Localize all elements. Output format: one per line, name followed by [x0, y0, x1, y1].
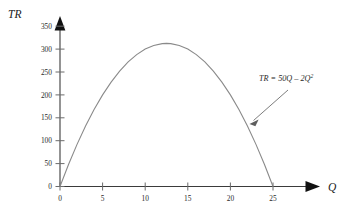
y-axis-tick-labels: 0 50 100 150 200 250 300 350 [41, 22, 52, 191]
x-axis-tick-labels: 0 5 10 15 20 25 [58, 194, 277, 203]
y-tick-label-50: 50 [45, 159, 53, 168]
y-tick-label-150: 150 [41, 113, 52, 122]
x-tick-label-0: 0 [58, 194, 62, 203]
annotation-leader-line [254, 90, 289, 121]
y-tick-label-100: 100 [41, 136, 52, 145]
y-tick-label-0: 0 [48, 182, 52, 191]
x-tick-label-20: 20 [227, 194, 235, 203]
y-axis-label: TR [8, 8, 21, 20]
x-tick-label-10: 10 [142, 194, 150, 203]
figure-chart: 0 50 100 150 200 250 300 350 0 5 10 15 2… [0, 0, 346, 221]
total-revenue-curve [60, 43, 273, 186]
curve-equation-label: TR = 50Q – 2Q2 [259, 73, 313, 83]
x-tick-label-15: 15 [184, 194, 192, 203]
y-tick-label-300: 300 [41, 45, 52, 54]
y-tick-label-250: 250 [41, 68, 52, 77]
x-axis-label: Q [328, 181, 337, 193]
x-tick-label-25: 25 [269, 194, 277, 203]
y-axis-arrowhead-icon [55, 16, 66, 31]
y-tick-label-350: 350 [41, 22, 52, 31]
curve-equation-exponent: 2 [310, 73, 313, 79]
curve-equation-text: TR = 50Q – 2Q [259, 74, 311, 83]
chart-svg: 0 50 100 150 200 250 300 350 0 5 10 15 2… [0, 0, 346, 221]
y-tick-label-200: 200 [41, 91, 52, 100]
x-tick-label-5: 5 [101, 194, 105, 203]
x-axis-arrowhead-icon [306, 181, 321, 192]
